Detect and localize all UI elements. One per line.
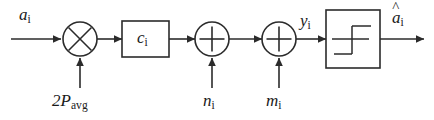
- received-signal-base: y: [300, 11, 308, 30]
- channel-coefficient-base: c: [137, 28, 145, 47]
- hat-icon: ^: [392, 0, 399, 15]
- block-diagram: ai 2Pavg ci ni mi yi ^ai: [0, 0, 434, 120]
- channel-coefficient-subscript: i: [145, 36, 148, 48]
- label-output-estimate: ^ai: [392, 9, 404, 29]
- gain-factor-subscript: avg: [71, 99, 88, 111]
- gain-factor-prefix: 2: [52, 91, 61, 110]
- label-gain-factor: 2Pavg: [52, 92, 88, 112]
- label-input-signal: ai: [19, 6, 31, 26]
- input-signal-subscript: i: [28, 13, 31, 25]
- input-signal-base: a: [19, 5, 28, 24]
- noise-n-subscript: i: [212, 99, 215, 111]
- label-received-signal: yi: [300, 12, 311, 32]
- label-channel-coefficient: ci: [137, 29, 148, 49]
- output-estimate-subscript: i: [401, 16, 404, 28]
- label-noise-n: ni: [203, 92, 215, 112]
- received-signal-subscript: i: [308, 19, 311, 31]
- output-estimate-hat-group: ^a: [392, 9, 401, 26]
- noise-n-base: n: [203, 91, 212, 110]
- gain-factor-base: P: [61, 91, 71, 110]
- noise-m-base: m: [266, 91, 278, 110]
- label-noise-m: mi: [266, 92, 282, 112]
- noise-m-subscript: i: [278, 99, 281, 111]
